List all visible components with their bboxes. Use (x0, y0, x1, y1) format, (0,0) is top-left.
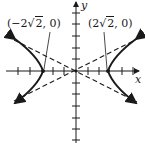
x-axis-label: x (135, 74, 141, 85)
radicand: 2 (35, 16, 43, 30)
vertex-left-point (41, 69, 45, 73)
sqrt-symbol: √2 (99, 18, 114, 29)
leader-line-right (104, 32, 107, 69)
paren-close: , 0) (114, 17, 132, 30)
hyperbola-diagram: (−2√2, 0) (2√2, 0) x y (0, 0, 145, 145)
y-axis-label: y (81, 0, 87, 11)
sqrt-symbol: √2 (28, 18, 43, 29)
paren-close: , 0) (43, 17, 61, 30)
coefficient: 2 (92, 17, 99, 30)
leader-line-left (44, 32, 50, 69)
origin-point (75, 70, 78, 73)
vertex-left-label: (−2√2, 0) (7, 18, 61, 29)
coefficient: −2 (11, 17, 27, 30)
radicand: 2 (106, 16, 114, 30)
vertex-right-point (106, 69, 110, 73)
vertex-right-label: (2√2, 0) (88, 18, 133, 29)
